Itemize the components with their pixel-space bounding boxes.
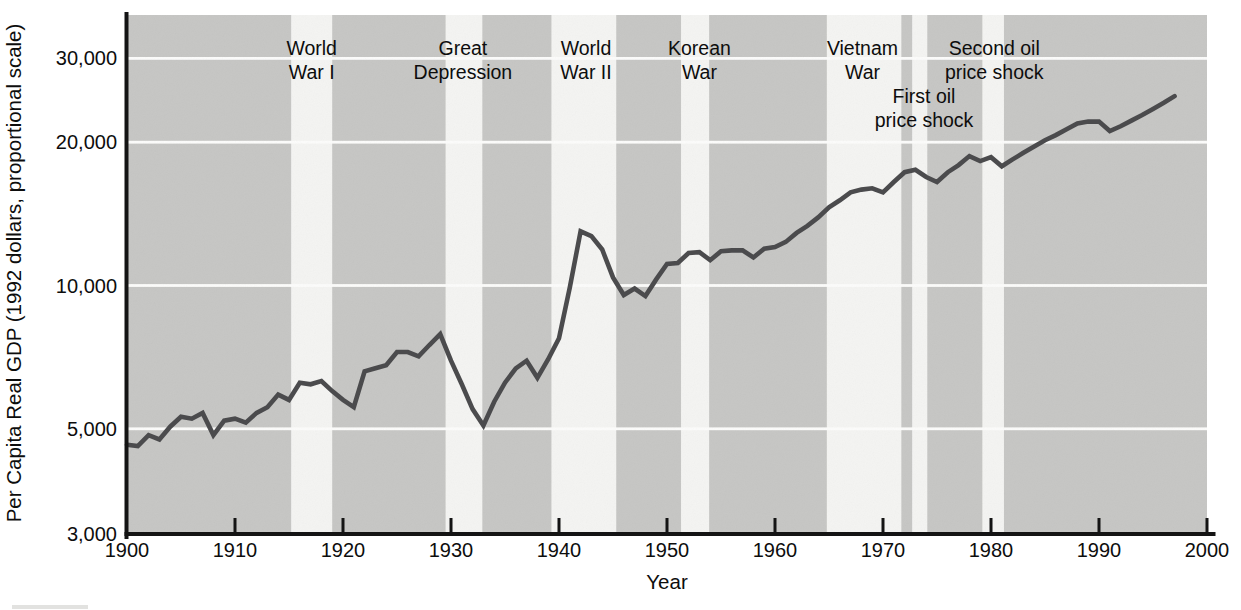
x-tick-mark-2000 xyxy=(1206,518,1209,532)
gdp-line-chart: WorldWar IGreatDepressionWorldWar IIKore… xyxy=(0,0,1241,610)
x-tick-label-1920: 1920 xyxy=(321,539,366,561)
x-tick-mark-1910 xyxy=(234,518,237,532)
x-tick-mark-1920 xyxy=(342,518,345,532)
event-label-first-oil-price-shock-line2: price shock xyxy=(875,109,974,131)
x-tick-mark-1960 xyxy=(774,518,777,532)
x-tick-mark-1940 xyxy=(558,518,561,532)
event-label-second-oil-price-shock-line1: Second oil xyxy=(949,37,1040,59)
y-tick-label-20000: 20,000 xyxy=(56,131,117,153)
x-tick-label-1970: 1970 xyxy=(861,539,906,561)
x-tick-label-2000: 2000 xyxy=(1185,539,1230,561)
x-tick-mark-1950 xyxy=(666,518,669,532)
x-axis-title: Year xyxy=(646,570,688,593)
x-tick-label-1950: 1950 xyxy=(645,539,690,561)
x-tick-label-1910: 1910 xyxy=(213,539,258,561)
y-axis-line xyxy=(125,12,129,539)
event-label-great-depression-line2: Depression xyxy=(414,61,513,83)
y-tick-label-3000: 3,000 xyxy=(67,523,117,545)
event-label-second-oil-price-shock-line2: price shock xyxy=(945,61,1044,83)
y-tick-label-5000: 5,000 xyxy=(67,418,117,440)
x-axis-line xyxy=(125,532,1216,536)
plot-texture xyxy=(127,15,1207,534)
x-tick-label-1980: 1980 xyxy=(969,539,1014,561)
y-tick-label-10000: 10,000 xyxy=(56,275,117,297)
event-label-world-war-i-line1: World xyxy=(286,37,337,59)
x-tick-label-1960: 1960 xyxy=(753,539,798,561)
cropped-caption-fragment xyxy=(12,605,88,609)
x-tick-label-1940: 1940 xyxy=(537,539,582,561)
y-tick-label-30000: 30,000 xyxy=(56,47,117,69)
x-tick-mark-1970 xyxy=(882,518,885,532)
event-label-korean-war-line2: War xyxy=(682,61,718,83)
y-axis-tick-labels: 30,00020,00010,0005,0003,000 xyxy=(56,47,117,545)
event-label-world-war-ii-line2: War II xyxy=(560,61,611,83)
event-label-first-oil-price-shock-line1: First oil xyxy=(893,85,956,107)
y-axis-title: Per Capita Real GDP (1992 dollars, propo… xyxy=(2,24,25,523)
event-label-korean-war-line1: Korean xyxy=(668,37,731,59)
event-label-world-war-i-line2: War I xyxy=(289,61,335,83)
event-label-great-depression-line1: Great xyxy=(438,37,487,59)
x-tick-mark-1980 xyxy=(990,518,993,532)
x-tick-label-1990: 1990 xyxy=(1077,539,1122,561)
x-tick-label-1930: 1930 xyxy=(429,539,474,561)
x-tick-mark-1990 xyxy=(1098,518,1101,532)
event-label-world-war-ii-line1: World xyxy=(561,37,612,59)
event-label-vietnam-war-line1: Vietnam xyxy=(827,37,898,59)
event-label-vietnam-war-line2: War xyxy=(845,61,881,83)
x-tick-mark-1930 xyxy=(450,518,453,532)
gdp-growth-figure: WorldWar IGreatDepressionWorldWar IIKore… xyxy=(0,0,1241,610)
